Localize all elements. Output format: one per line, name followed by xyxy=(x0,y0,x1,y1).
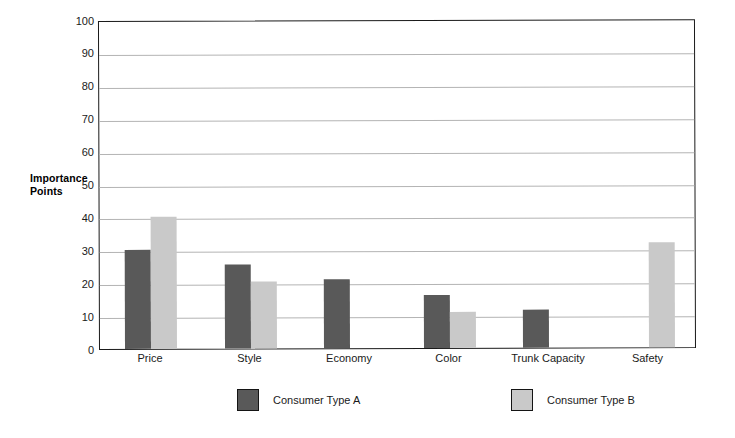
legend-label: Consumer Type B xyxy=(547,394,635,407)
x-axis-tick-label: Safety xyxy=(632,352,663,365)
y-axis-tick-label: 100 xyxy=(62,16,94,27)
bar-trunk-capacity-a xyxy=(523,310,549,348)
light-gray-swatch xyxy=(511,389,533,411)
bar-chart-figure: Importance Points 1009080706050403020100… xyxy=(0,0,735,438)
bar-economy-a xyxy=(324,279,350,348)
plot-area xyxy=(98,19,696,350)
y-axis-tick-label: 90 xyxy=(62,48,94,59)
legend-label: Consumer Type A xyxy=(273,394,360,407)
bar-safety-b xyxy=(648,242,674,347)
chart-legend: Consumer Type AConsumer Type B xyxy=(99,386,699,416)
x-axis-tick-label: Trunk Capacity xyxy=(511,352,585,365)
bar-style-b xyxy=(250,281,276,349)
y-axis-tick-label: 60 xyxy=(62,147,94,158)
bar-price-a xyxy=(125,250,151,349)
y-axis-tick-labels: 1009080706050403020100 xyxy=(62,0,94,438)
x-axis-tick-labels: PriceStyleEconomyColorTrunk CapacitySafe… xyxy=(99,352,696,370)
y-axis-tick-label: 20 xyxy=(62,279,94,290)
bar-price-b xyxy=(151,217,177,349)
x-axis-tick-label: Economy xyxy=(326,352,372,365)
y-axis-tick-label: 80 xyxy=(62,81,94,92)
x-axis-tick-label: Style xyxy=(237,352,261,365)
y-axis-tick-label: 0 xyxy=(62,345,94,356)
y-axis-tick-label: 70 xyxy=(62,114,94,125)
y-axis-tick-label: 40 xyxy=(62,213,94,224)
x-axis-tick-label: Price xyxy=(137,352,162,365)
y-axis-tick-label: 30 xyxy=(62,246,94,257)
bars-layer xyxy=(99,20,695,349)
dark-gray-swatch xyxy=(237,389,259,411)
bar-style-a xyxy=(224,265,250,349)
legend-entry: Consumer Type A xyxy=(237,386,360,414)
bar-color-a xyxy=(423,295,449,348)
legend-entry: Consumer Type B xyxy=(511,386,635,414)
y-axis-tick-label: 50 xyxy=(62,180,94,191)
bar-color-b xyxy=(449,312,475,348)
y-axis-tick-label: 10 xyxy=(62,312,94,323)
x-axis-tick-label: Color xyxy=(435,352,461,365)
